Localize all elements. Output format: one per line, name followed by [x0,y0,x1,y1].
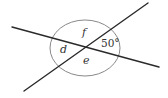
angle-label-f: f [81,26,88,39]
angle-label-50-degrees: 50° [101,37,120,49]
diagram-canvas: f d e 50° [0,0,168,98]
angle-label-d: d [60,43,67,56]
line-2 [24,3,148,91]
angle-label-e: e [83,54,90,67]
angle-diagram: f d e 50° [0,0,168,98]
